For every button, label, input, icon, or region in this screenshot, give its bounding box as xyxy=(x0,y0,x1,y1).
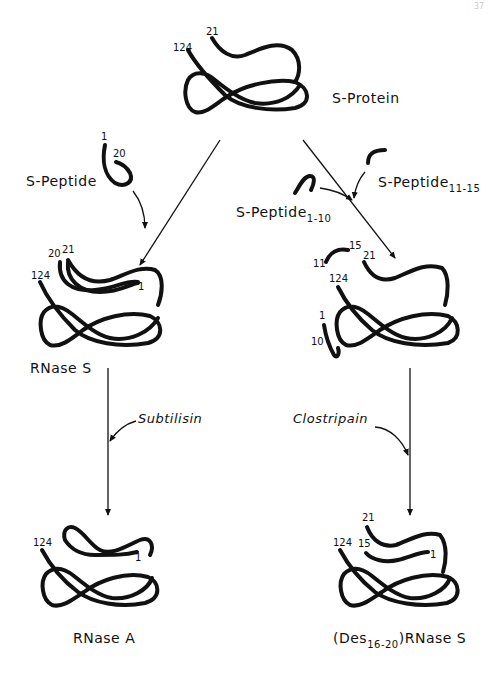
s-peptide-1-10-text: S-Peptide xyxy=(236,204,307,220)
des-rnase-s-label: (Des16-20)RNase S xyxy=(333,630,466,646)
rnase-a-structure xyxy=(42,527,157,606)
rnase-s-structure xyxy=(40,260,162,346)
s-peptide-1-10-structure xyxy=(295,176,314,193)
residue-label-15: 15 xyxy=(349,240,362,251)
arrow-s-peptide-11-15-join xyxy=(354,172,365,198)
s-peptide-1-10-label: S-Peptide1-10 xyxy=(236,204,331,220)
arrow-clostripain xyxy=(375,427,408,455)
residue-label-124: 124 xyxy=(31,270,50,281)
residue-label-20: 20 xyxy=(113,148,126,159)
arrow-s-protein-to-rnase-s xyxy=(140,140,220,265)
s-peptide-1-10-subscript: 1-10 xyxy=(307,213,332,224)
s-peptide-label: S-Peptide xyxy=(26,173,97,189)
residue-label-124: 124 xyxy=(329,273,348,284)
s-protein-label: S-Protein xyxy=(332,90,400,106)
des-suffix: )RNase S xyxy=(399,630,467,646)
reaction-diagram xyxy=(0,0,499,674)
arrow-s-peptide-join xyxy=(133,191,145,228)
residue-label-21: 21 xyxy=(62,244,75,255)
rnase-s-label: RNase S xyxy=(30,360,92,376)
rnase-a-label: RNase A xyxy=(73,630,135,646)
residue-label-20: 20 xyxy=(48,248,61,259)
residue-label-1: 1 xyxy=(430,549,436,560)
subtilisin-label: Subtilisin xyxy=(138,411,202,426)
residue-label-1: 1 xyxy=(135,552,141,563)
residue-label-124: 124 xyxy=(33,537,52,548)
residue-label-15: 15 xyxy=(358,538,371,549)
s-peptide-11-15-subscript: 11-15 xyxy=(449,183,481,194)
arrow-subtilisin xyxy=(110,421,136,441)
s-peptide-11-15-text: S-Peptide xyxy=(378,174,449,190)
residue-label-1: 1 xyxy=(101,131,107,142)
des-subscript: 16-20 xyxy=(367,639,399,650)
rnase-s-fragment-mix-structure xyxy=(324,250,458,357)
clostripain-label: Clostripain xyxy=(293,411,368,426)
residue-label-21: 21 xyxy=(363,250,376,261)
s-peptide-11-15-structure xyxy=(368,150,385,163)
residue-label-1: 1 xyxy=(319,310,325,321)
arrow-s-peptide-1-10-join xyxy=(320,188,352,200)
residue-label-124: 124 xyxy=(333,537,352,548)
s-peptide-11-15-label: S-Peptide11-15 xyxy=(378,174,480,190)
residue-label-21: 21 xyxy=(206,26,219,37)
residue-label-21: 21 xyxy=(362,512,375,523)
residue-label-124: 124 xyxy=(173,42,192,53)
residue-label-11: 11 xyxy=(313,258,326,269)
residue-label-10: 10 xyxy=(311,336,324,347)
residue-label-1: 1 xyxy=(138,281,144,292)
des-prefix: (Des xyxy=(333,630,367,646)
s-protein-structure xyxy=(185,38,307,113)
